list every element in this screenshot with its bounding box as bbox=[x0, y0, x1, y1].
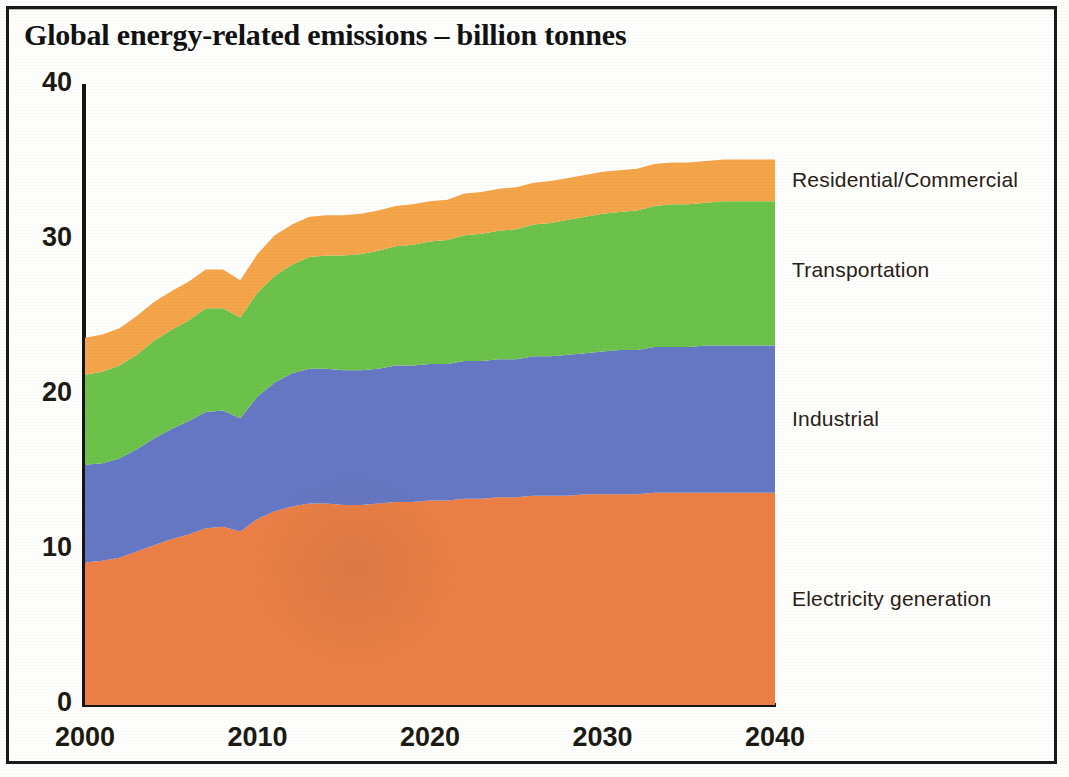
y-tick-10: 10 bbox=[8, 532, 72, 563]
series-label-industrial: Industrial bbox=[792, 407, 879, 431]
y-tick-40: 40 bbox=[8, 67, 72, 98]
x-tick-2010: 2010 bbox=[227, 722, 287, 753]
series-label-electricity-generation: Electricity generation bbox=[792, 587, 991, 611]
y-tick-30: 30 bbox=[8, 222, 72, 253]
x-tick-2020: 2020 bbox=[400, 722, 460, 753]
y-tick-20: 20 bbox=[8, 377, 72, 408]
stacked-area-chart bbox=[85, 85, 775, 705]
series-label-residential-commercial: Residential/Commercial bbox=[792, 168, 1018, 192]
page-title: Global energy-related emissions – billio… bbox=[24, 18, 626, 52]
x-tick-2000: 2000 bbox=[55, 722, 115, 753]
chart-screenshot: Global energy-related emissions – billio… bbox=[0, 0, 1069, 777]
y-axis-tick-labels: 40 30 20 10 0 bbox=[0, 0, 72, 777]
x-tick-2030: 2030 bbox=[572, 722, 632, 753]
x-tick-2040: 2040 bbox=[745, 722, 805, 753]
plot-area bbox=[85, 85, 775, 705]
series-label-transportation: Transportation bbox=[792, 258, 929, 282]
y-tick-0: 0 bbox=[8, 687, 72, 718]
